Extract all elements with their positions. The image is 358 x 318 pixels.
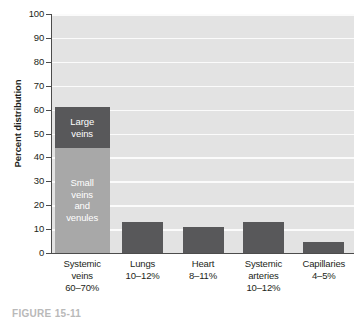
y-tick-label: 100 xyxy=(18,9,44,19)
bar xyxy=(122,222,163,253)
bar xyxy=(303,242,344,253)
x-category-label: Heart8–11% xyxy=(173,258,233,282)
figure-bar-chart: Percent distribution 0102030405060708090… xyxy=(0,0,358,318)
y-tick-label: 60 xyxy=(18,105,44,115)
bar-segment xyxy=(122,222,163,253)
bar-segment: Largeveins xyxy=(55,107,110,148)
bar-slot: SmallveinsandvenulesLargeveins xyxy=(55,14,110,253)
bar: SmallveinsandvenulesLargeveins xyxy=(55,107,110,253)
x-category-label: Systemicarteries10–12% xyxy=(233,258,293,295)
y-tick-label: 40 xyxy=(18,152,44,162)
y-tick-label: 50 xyxy=(18,129,44,139)
bar xyxy=(243,222,284,253)
x-category-label: Capillaries4–5% xyxy=(294,258,354,282)
y-tick-label: 20 xyxy=(18,200,44,210)
y-tick-label: 30 xyxy=(18,176,44,186)
bar-segment-label: Largeveins xyxy=(55,116,110,139)
bar xyxy=(183,227,224,253)
bar-slot xyxy=(303,14,344,253)
x-category-label: Lungs10–12% xyxy=(112,258,172,282)
y-tick-label: 90 xyxy=(18,33,44,43)
bar-segment xyxy=(183,227,224,253)
x-axis-line xyxy=(51,253,354,254)
bar-segment xyxy=(243,222,284,253)
bar-slot xyxy=(183,14,224,253)
y-tick-label: 70 xyxy=(18,81,44,91)
x-axis-category-labels: Systemicveins60–70%Lungs10–12%Heart8–11%… xyxy=(52,258,354,316)
y-axis-tick-labels: 0102030405060708090100 xyxy=(18,8,44,259)
plot-area: SmallveinsandvenulesLargeveins xyxy=(52,14,354,253)
bar-segment: Smallveinsandvenules xyxy=(55,148,110,253)
bar-slot xyxy=(243,14,284,253)
bar-slot xyxy=(122,14,163,253)
y-tick-label: 0 xyxy=(18,248,44,258)
figure-caption: FIGURE 15-11 xyxy=(12,308,81,318)
y-tick-label: 80 xyxy=(18,57,44,67)
bar-segment xyxy=(303,242,344,253)
x-category-label: Systemicveins60–70% xyxy=(52,258,112,295)
bar-segment-label: Smallveinsandvenules xyxy=(55,177,110,223)
y-tick-label: 10 xyxy=(18,224,44,234)
